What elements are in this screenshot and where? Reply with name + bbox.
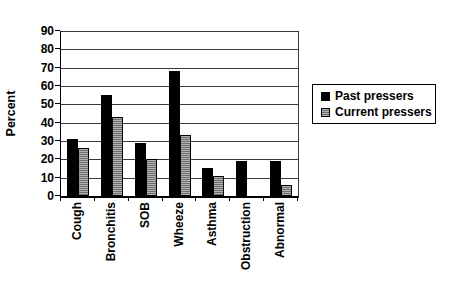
- bar-current-abnormal: [281, 185, 292, 196]
- y-tick-label-60: 60: [20, 79, 54, 93]
- y-tick-label-0: 0: [20, 189, 54, 203]
- bar-past-wheeze: [169, 71, 180, 196]
- bar-current-asthma: [213, 176, 224, 196]
- bar-current-cough: [78, 148, 89, 196]
- category-label-wheeze: Wheeze: [172, 202, 186, 272]
- y-tick-mark: [55, 140, 60, 141]
- gridline-60: [61, 86, 298, 87]
- category-label-abnormal: Abnormal: [273, 202, 287, 272]
- gridline-80: [61, 49, 298, 50]
- y-tick-mark: [55, 67, 60, 68]
- x-tick-mark: [60, 196, 61, 201]
- x-tick-mark: [128, 196, 129, 201]
- category-label-obstruction: Obstruction: [239, 202, 253, 272]
- category-label-sob: SOB: [138, 202, 152, 272]
- x-tick-mark: [263, 196, 264, 201]
- category-label-cough: Cough: [70, 202, 84, 272]
- gridline-50: [61, 104, 298, 105]
- gridline-40: [61, 123, 298, 124]
- y-tick-label-90: 90: [20, 24, 54, 38]
- legend-marker-current-icon: [321, 108, 330, 117]
- y-tick-mark: [55, 85, 60, 86]
- y-tick-mark: [55, 30, 60, 31]
- y-tick-label-30: 30: [20, 134, 54, 148]
- y-tick-label-80: 80: [20, 42, 54, 56]
- legend: Past pressers Current pressers: [312, 84, 436, 124]
- category-label-bronchitis: Bronchitis: [104, 202, 118, 272]
- legend-item-current: Current pressers: [321, 106, 435, 119]
- gridline-70: [61, 68, 298, 69]
- bar-past-asthma: [202, 168, 213, 196]
- x-tick-mark: [297, 196, 298, 201]
- bar-past-sob: [135, 143, 146, 196]
- bar-past-cough: [67, 139, 78, 196]
- y-tick-mark: [55, 177, 60, 178]
- y-tick-label-50: 50: [20, 97, 54, 111]
- legend-label-past: Past pressers: [335, 90, 414, 103]
- bar-current-wheeze: [180, 135, 191, 196]
- bar-past-abnormal: [270, 161, 281, 196]
- y-tick-label-20: 20: [20, 152, 54, 166]
- x-tick-mark: [94, 196, 95, 201]
- y-tick-label-40: 40: [20, 116, 54, 130]
- y-tick-label-10: 10: [20, 171, 54, 185]
- plot-area: [60, 31, 299, 198]
- bar-chart-figure: Percent Past pressers Current pressers 0…: [0, 0, 451, 288]
- y-tick-mark: [55, 48, 60, 49]
- x-tick-mark: [162, 196, 163, 201]
- legend-label-current: Current pressers: [335, 106, 432, 119]
- x-tick-mark: [229, 196, 230, 201]
- y-tick-mark: [55, 122, 60, 123]
- bar-current-sob: [146, 159, 157, 196]
- y-axis-title: Percent: [4, 83, 19, 145]
- y-tick-label-70: 70: [20, 61, 54, 75]
- x-tick-mark: [195, 196, 196, 201]
- y-tick-mark: [55, 103, 60, 104]
- legend-item-past: Past pressers: [321, 90, 435, 103]
- bar-past-bronchitis: [101, 95, 112, 196]
- bar-past-obstruction: [236, 161, 247, 196]
- gridline-90: [61, 31, 298, 32]
- category-label-asthma: Asthma: [205, 202, 219, 272]
- bar-current-bronchitis: [112, 117, 123, 196]
- legend-marker-past-icon: [321, 92, 330, 101]
- y-tick-mark: [55, 158, 60, 159]
